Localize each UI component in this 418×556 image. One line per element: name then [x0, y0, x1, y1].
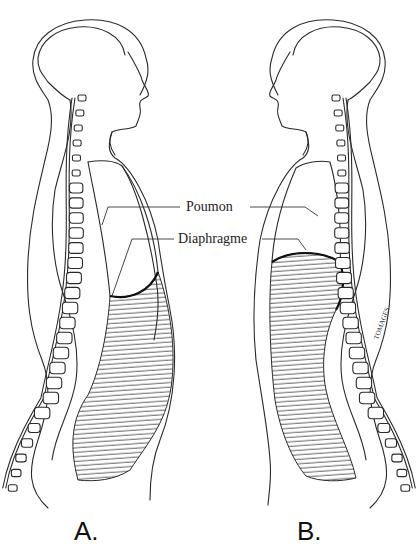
vertebra [34, 407, 49, 419]
breathing-diagram: Poumon Diaphragme A. B. TOMAGES [0, 0, 418, 556]
vertebra [76, 110, 84, 116]
leader-diaphragm-a [112, 239, 174, 296]
panel-caption-b: B. [297, 516, 322, 546]
vertebra [385, 439, 396, 447]
vertebra [335, 198, 349, 208]
figure-a-lung [88, 162, 158, 297]
artist-signature: TOMAGES [372, 306, 391, 341]
figure-b [254, 20, 415, 508]
vertebra [69, 228, 83, 239]
vertebra [397, 469, 407, 476]
vertebra [74, 125, 82, 131]
vertebra [353, 362, 368, 374]
vertebra [43, 392, 58, 404]
vertebra [340, 302, 355, 314]
figure-b-spine [332, 95, 415, 491]
figure-b-lung [272, 161, 341, 262]
vertebra [69, 213, 83, 223]
leader-diaphragm-b [262, 239, 306, 250]
vertebra [401, 485, 410, 492]
vertebra [78, 95, 86, 101]
label-diaphragm: Diaphragme [178, 231, 247, 246]
vertebra [338, 170, 346, 176]
vertebra [337, 272, 352, 283]
vertebra [338, 287, 353, 298]
figure-b-face [270, 52, 309, 155]
vertebra [67, 272, 82, 283]
vertebra [359, 392, 374, 404]
vertebra [335, 243, 349, 254]
vertebra [73, 140, 81, 146]
figure-a [3, 20, 175, 508]
vertebra [50, 362, 65, 374]
vertebra [335, 213, 349, 223]
vertebra [57, 332, 72, 344]
figure-a-skull [38, 27, 125, 100]
vertebra [65, 287, 80, 298]
vertebra [11, 469, 21, 476]
vertebra [53, 347, 68, 359]
vertebra [8, 485, 17, 492]
vertebra [335, 183, 348, 193]
vertebra [68, 258, 83, 269]
vertebra [69, 198, 83, 208]
vertebra [378, 424, 390, 433]
vertebra [21, 439, 32, 447]
vertebra [337, 140, 345, 146]
vertebra [332, 95, 340, 101]
figure-a-abdomen [73, 272, 173, 481]
vertebra [72, 170, 80, 176]
vertebra [16, 454, 26, 462]
vertebra [343, 317, 358, 329]
vertebra [60, 317, 75, 329]
vertebra [349, 347, 364, 359]
vertebra [28, 424, 40, 433]
vertebra [338, 155, 346, 161]
vertebra [368, 407, 383, 419]
vertebra [335, 228, 349, 239]
vertebra [334, 110, 342, 116]
vertebra [336, 258, 351, 269]
vertebra [392, 454, 402, 462]
vertebra [356, 377, 371, 389]
vertebra [336, 125, 344, 131]
vertebra [46, 377, 61, 389]
figure-a-face [110, 52, 149, 155]
figure-b-skull [293, 27, 380, 100]
vertebra [69, 243, 83, 254]
vertebra [69, 183, 82, 193]
vertebra [346, 332, 361, 344]
vertebra [72, 155, 80, 161]
leader-lung-b [250, 207, 318, 216]
vertebra [62, 302, 77, 314]
panel-caption-a: A. [74, 516, 99, 546]
label-lung: Poumon [186, 199, 233, 214]
